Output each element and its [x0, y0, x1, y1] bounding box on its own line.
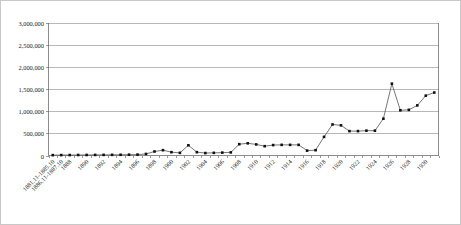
- data-point-marker: [280, 144, 283, 147]
- data-point-marker: [314, 149, 317, 152]
- data-point-marker: [77, 154, 80, 157]
- data-point-marker: [204, 152, 207, 155]
- data-point-marker: [51, 154, 54, 157]
- data-point-marker: [357, 130, 360, 133]
- data-point-marker: [119, 153, 122, 156]
- data-point-marker: [94, 154, 97, 157]
- y-tick-label: 3,000,000: [18, 20, 44, 27]
- data-point-marker: [374, 129, 377, 132]
- data-point-marker: [153, 150, 156, 153]
- data-point-marker: [68, 154, 71, 157]
- data-point-marker: [221, 151, 224, 154]
- data-point-marker: [229, 151, 232, 154]
- data-point-marker: [306, 149, 309, 152]
- data-point-marker: [255, 143, 258, 146]
- data-point-marker: [340, 124, 343, 127]
- data-point-marker: [145, 153, 148, 156]
- data-point-marker: [102, 154, 105, 157]
- data-point-marker: [424, 94, 427, 97]
- data-point-marker: [391, 82, 394, 85]
- data-point-marker: [408, 109, 411, 112]
- chart-background: [1, 1, 461, 225]
- data-point-marker: [187, 144, 190, 147]
- data-point-marker: [246, 142, 249, 145]
- chart-frame: 3,000,0002,500,0002,000,0001,500,0001,00…: [0, 0, 461, 225]
- data-point-marker: [111, 154, 114, 157]
- line-chart: 3,000,0002,500,0002,000,0001,500,0001,00…: [1, 1, 461, 225]
- data-point-marker: [297, 144, 300, 147]
- data-point-marker: [433, 91, 436, 94]
- data-point-marker: [263, 145, 266, 148]
- data-point-marker: [128, 153, 131, 156]
- data-point-marker: [365, 129, 368, 132]
- data-point-marker: [272, 144, 275, 147]
- y-tick-label: 2,500,000: [18, 42, 44, 49]
- y-tick-label: 0: [41, 153, 44, 160]
- data-point-marker: [348, 130, 351, 133]
- data-point-marker: [162, 149, 165, 152]
- data-point-marker: [289, 144, 292, 147]
- data-point-marker: [238, 143, 241, 146]
- data-point-marker: [323, 136, 326, 139]
- data-point-marker: [179, 152, 182, 155]
- data-point-marker: [331, 123, 334, 126]
- data-point-marker: [416, 104, 419, 107]
- y-tick-label: 2,000,000: [18, 64, 44, 71]
- y-tick-label: 500,000: [23, 130, 44, 137]
- data-point-marker: [60, 154, 63, 157]
- y-tick-label: 1,000,000: [18, 108, 44, 115]
- data-point-marker: [399, 109, 402, 112]
- data-point-marker: [85, 154, 88, 157]
- data-point-marker: [213, 152, 216, 155]
- data-point-marker: [136, 153, 139, 156]
- y-tick-label: 1,500,000: [18, 86, 44, 93]
- data-point-marker: [170, 151, 173, 154]
- data-point-marker: [196, 151, 199, 154]
- data-point-marker: [382, 117, 385, 120]
